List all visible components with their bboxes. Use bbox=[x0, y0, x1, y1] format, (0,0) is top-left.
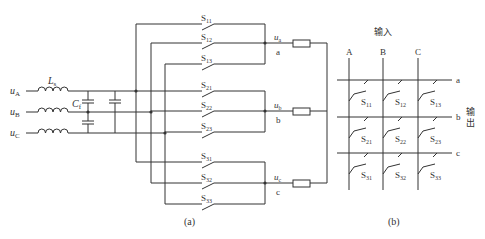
capacitor-label: Cf bbox=[72, 98, 82, 111]
row-label-c: c bbox=[456, 148, 460, 158]
caption-b: (b) bbox=[388, 216, 400, 228]
output-loads bbox=[265, 40, 327, 187]
svg-text:S23: S23 bbox=[201, 121, 212, 132]
column-label-a: A bbox=[346, 47, 353, 57]
panel-a: uA uB uC Ls Cf bbox=[10, 13, 327, 228]
svg-text:S32: S32 bbox=[201, 172, 212, 183]
svg-text:S12: S12 bbox=[395, 97, 406, 108]
output-title-2: 出 bbox=[466, 117, 475, 128]
svg-text:S22: S22 bbox=[395, 134, 406, 145]
row-label-a: a bbox=[456, 75, 460, 85]
matrix-converter-diagram: uA uB uC Ls Cf bbox=[0, 0, 485, 239]
inductor-label: Ls bbox=[47, 75, 57, 88]
svg-text:S12: S12 bbox=[201, 32, 212, 43]
column-label-c: C bbox=[415, 47, 421, 57]
row-label-b: b bbox=[456, 112, 461, 122]
output-voltage-a: ua bbox=[274, 32, 282, 43]
svg-text:S13: S13 bbox=[201, 53, 212, 64]
crosspoint-labels: S11 S12 S13 S21 S22 S23 S31 S32 S33 bbox=[361, 97, 441, 181]
switch-network bbox=[136, 24, 267, 210]
output-node-a: a bbox=[276, 47, 280, 57]
input-buses bbox=[134, 24, 166, 204]
crosspoint-switches bbox=[349, 80, 437, 174]
svg-text:S31: S31 bbox=[361, 170, 372, 181]
svg-text:S22: S22 bbox=[201, 100, 212, 111]
svg-text:S13: S13 bbox=[430, 97, 441, 108]
svg-text:S31: S31 bbox=[201, 151, 212, 162]
output-title-1: 输 bbox=[466, 106, 475, 117]
output-voltage-c: uc bbox=[274, 172, 282, 183]
switch-labels: S11 S12 S13 S21 S22 S23 S31 S32 S33 bbox=[201, 13, 212, 204]
inductor-icon bbox=[26, 87, 165, 133]
input-label-c: uC bbox=[10, 127, 20, 140]
svg-text:S33: S33 bbox=[201, 193, 212, 204]
input-title: 输入 bbox=[374, 26, 392, 37]
input-label-b: uB bbox=[10, 106, 20, 119]
caption-a: (a) bbox=[184, 216, 195, 228]
output-voltage-b: ub bbox=[274, 100, 282, 111]
svg-text:S23: S23 bbox=[430, 134, 441, 145]
input-label-a: uA bbox=[10, 85, 20, 98]
svg-text:S21: S21 bbox=[201, 80, 212, 91]
svg-text:S11: S11 bbox=[361, 97, 372, 108]
svg-text:S32: S32 bbox=[395, 170, 406, 181]
svg-text:S11: S11 bbox=[201, 13, 212, 24]
svg-text:S33: S33 bbox=[430, 170, 441, 181]
output-node-b: b bbox=[276, 115, 281, 125]
svg-text:S21: S21 bbox=[361, 134, 372, 145]
output-node-c: c bbox=[276, 187, 280, 197]
panel-b: 输入 A B C a b c 输 出 bbox=[337, 26, 475, 228]
column-label-b: B bbox=[380, 47, 386, 57]
